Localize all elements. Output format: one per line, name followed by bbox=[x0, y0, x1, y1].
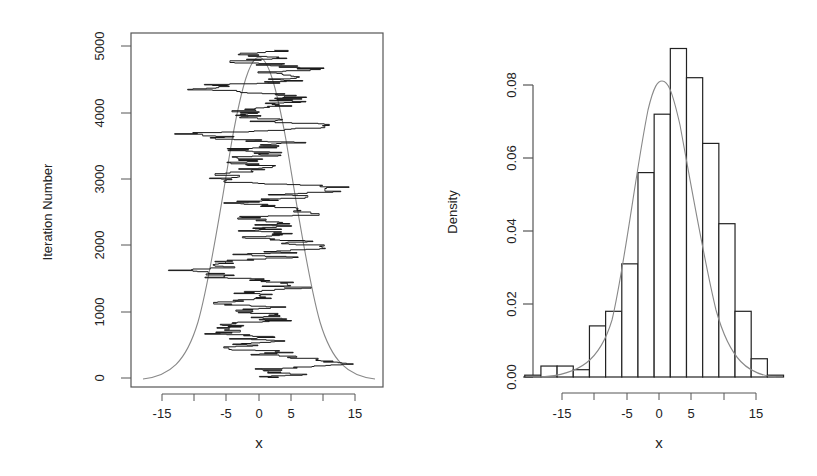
figure: 0 1000 2000 3000 4000 5000 Iteration Num… bbox=[0, 0, 817, 476]
y-tick-label: 1000 bbox=[92, 298, 107, 327]
y-tick-label: 4000 bbox=[92, 99, 107, 128]
histogram-bar bbox=[573, 370, 589, 377]
x-tick-label: -5 bbox=[621, 406, 633, 421]
y-tick-label: 0.04 bbox=[504, 218, 519, 243]
histogram-plot: 0.00 0.02 0.04 0.06 0.08 Density -15 -5 … bbox=[445, 49, 784, 452]
x-tick-label: 15 bbox=[749, 406, 763, 421]
plot-frame bbox=[131, 33, 383, 387]
y-tick-label: 0.02 bbox=[504, 291, 519, 316]
x-tick-label: 5 bbox=[687, 406, 694, 421]
histogram-bar bbox=[686, 78, 702, 377]
x-tick-label: -5 bbox=[220, 406, 232, 421]
x-axis bbox=[162, 394, 355, 401]
y-tick-labels: 0 1000 2000 3000 4000 5000 bbox=[92, 32, 107, 382]
x-tick-labels: -15 -5 0 5 15 bbox=[153, 406, 363, 421]
x-axis-label: x bbox=[255, 434, 263, 451]
trace-plot: 0 1000 2000 3000 4000 5000 Iteration Num… bbox=[40, 32, 383, 451]
y-tick-label: 2000 bbox=[92, 231, 107, 260]
y-axis-label: Density bbox=[445, 190, 460, 234]
histogram-bar bbox=[606, 311, 622, 377]
histogram-bar bbox=[654, 114, 670, 377]
x-tick-label: 15 bbox=[348, 406, 362, 421]
x-tick-labels: -15 -5 0 5 15 bbox=[553, 406, 764, 421]
y-tick-label: 5000 bbox=[92, 32, 107, 61]
y-tick-labels: 0.00 0.02 0.04 0.06 0.08 bbox=[504, 72, 519, 389]
x-tick-label: 0 bbox=[255, 406, 262, 421]
y-tick-label: 0 bbox=[92, 374, 107, 381]
y-tick-label: 0.08 bbox=[504, 72, 519, 97]
histogram-bar bbox=[751, 359, 767, 377]
histogram-bar bbox=[735, 311, 751, 377]
histogram-bar bbox=[719, 224, 735, 377]
x-axis bbox=[562, 393, 756, 400]
y-tick-label: 0.00 bbox=[504, 364, 519, 389]
x-tick-label: -15 bbox=[553, 406, 572, 421]
y-axis bbox=[523, 85, 533, 377]
x-axis-label: x bbox=[655, 434, 663, 451]
y-tick-label: 0.06 bbox=[504, 145, 519, 170]
histogram-bars bbox=[525, 49, 784, 378]
y-axis bbox=[121, 46, 131, 378]
histogram-bar bbox=[638, 173, 654, 377]
histogram-bar bbox=[622, 264, 638, 377]
x-tick-label: -15 bbox=[153, 406, 172, 421]
y-tick-label: 3000 bbox=[92, 165, 107, 194]
x-tick-label: 5 bbox=[287, 406, 294, 421]
histogram-bar bbox=[525, 375, 541, 377]
y-axis-label: Iteration Number bbox=[40, 163, 55, 260]
x-tick-label: 0 bbox=[655, 406, 662, 421]
